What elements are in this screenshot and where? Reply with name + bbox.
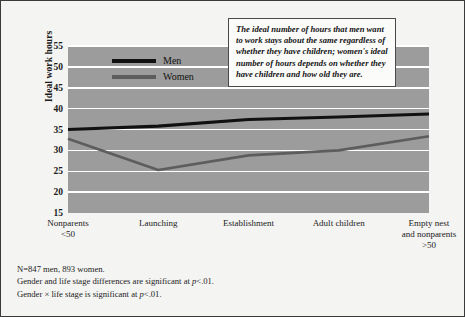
footnote-2-value: <.01.: [196, 276, 214, 286]
x-tick-line: Adult children: [313, 218, 365, 229]
x-tick-label: Adult children: [313, 218, 365, 229]
legend-label-men: Men: [163, 56, 181, 66]
y-tick-label: 25: [54, 166, 64, 176]
y-tick-label: 15: [54, 208, 64, 218]
callout-box: The ideal number of hours that men want …: [228, 18, 396, 87]
x-tick-line: Launching: [139, 218, 178, 229]
x-tick-label: Launching: [139, 218, 178, 229]
x-tick-label: Establishment: [223, 218, 274, 229]
legend-item-women: Women: [112, 72, 194, 82]
footnotes: N=847 men, 893 women. Gender and life st…: [17, 263, 214, 300]
line-women: [68, 136, 429, 170]
x-tick-line: >50: [402, 240, 457, 251]
x-tick-line: Empty nest: [402, 218, 457, 229]
x-tick-line: Nonparents: [47, 218, 89, 229]
y-tick-label: 45: [54, 83, 64, 93]
legend-item-men: Men: [112, 56, 194, 66]
legend: Men Women: [112, 56, 194, 82]
y-tick-label: 30: [54, 145, 64, 155]
figure-container: 152025303540455055 Nonparents<50Launchin…: [0, 0, 465, 317]
footnote-3-text: Gender × life stage is significant at: [17, 289, 140, 299]
x-tick-line: and nonparents: [402, 229, 457, 240]
y-tick-label: 50: [54, 62, 64, 72]
footnote-significance-main: Gender and life stage differences are si…: [17, 275, 214, 287]
x-tick-line: Establishment: [223, 218, 274, 229]
y-axis-title: Ideal work hours: [44, 0, 54, 102]
footnote-3-value: <.01.: [144, 289, 162, 299]
x-tick-label: Empty nestand nonparents>50: [402, 218, 457, 251]
y-tick-label: 20: [54, 187, 64, 197]
legend-label-women: Women: [163, 72, 194, 82]
x-tick-line: <50: [47, 229, 89, 240]
legend-swatch-men-icon: [112, 59, 156, 63]
line-men: [68, 114, 429, 129]
footnote-2-text: Gender and life stage differences are si…: [17, 276, 192, 286]
y-tick-label: 55: [54, 41, 64, 51]
footnote-sample-size: N=847 men, 893 women.: [17, 263, 214, 275]
y-tick-label: 40: [54, 104, 64, 114]
footnote-significance-interaction: Gender × life stage is significant at p<…: [17, 288, 214, 300]
x-tick-label: Nonparents<50: [47, 218, 89, 240]
y-tick-label: 35: [54, 125, 64, 135]
legend-swatch-women-icon: [112, 75, 156, 79]
